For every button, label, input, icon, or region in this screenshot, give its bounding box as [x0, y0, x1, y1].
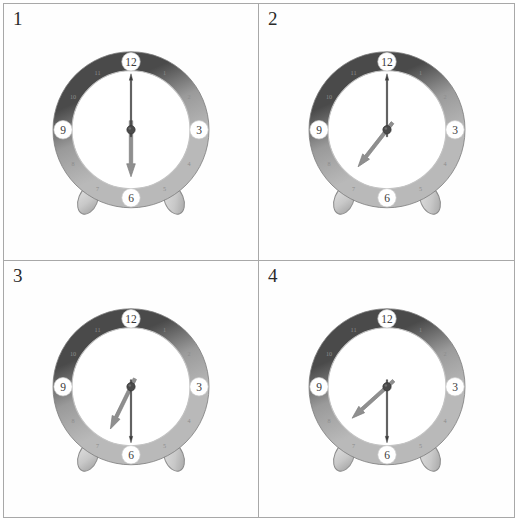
clock-hub-highlight: [384, 384, 387, 387]
clock-numeral-2: 2: [443, 350, 446, 357]
clock-numeral-10: 10: [70, 93, 76, 100]
clock-hub-highlight: [384, 127, 387, 130]
clock-panel-2[interactable]: 2 121234567891011: [258, 3, 515, 261]
clock-numeral-5: 5: [163, 442, 166, 449]
clock-numeral-10: 10: [325, 350, 331, 357]
clock-numeral-9: 9: [60, 381, 66, 393]
clock-numeral-4: 4: [443, 160, 446, 167]
panel-index-label: 1: [13, 9, 23, 30]
panel-index-label: 3: [13, 266, 23, 287]
clock-hub: [127, 126, 135, 134]
clock-panel-3[interactable]: 3 121234567891011: [3, 260, 259, 518]
clock-numeral-1: 1: [163, 326, 166, 333]
clock-numeral-6: 6: [128, 192, 134, 204]
clock-numeral-4: 4: [187, 160, 190, 167]
panel-index-label: 2: [268, 9, 278, 30]
clock-grid: 1 121234567891011 2 121234567891011 3 12…: [0, 0, 518, 521]
clock-numeral-1: 1: [418, 326, 421, 333]
clock-numeral-7: 7: [351, 442, 354, 449]
clock-numeral-8: 8: [71, 160, 74, 167]
clock-numeral-10: 10: [325, 93, 331, 100]
clock-numeral-8: 8: [71, 417, 74, 424]
clock-numeral-5: 5: [418, 442, 421, 449]
clock-numeral-2: 2: [187, 93, 190, 100]
clock-numeral-9: 9: [316, 381, 322, 393]
clock-numeral-7: 7: [96, 442, 99, 449]
clock-panel-1[interactable]: 1 121234567891011: [3, 3, 259, 261]
clock-numeral-11: 11: [95, 69, 101, 76]
clock-hub-highlight: [129, 384, 132, 387]
clock-numeral-11: 11: [350, 326, 356, 333]
clock-numeral-2: 2: [443, 93, 446, 100]
clock-numeral-12: 12: [125, 56, 137, 68]
clock-numeral-3: 3: [452, 381, 458, 393]
clock-illustration-3: 121234567891011: [48, 299, 214, 487]
clock-numeral-8: 8: [327, 417, 330, 424]
clock-numeral-1: 1: [163, 69, 166, 76]
clock-illustration-1: 121234567891011: [48, 42, 214, 230]
clock-numeral-3: 3: [196, 124, 202, 136]
clock-numeral-12: 12: [125, 313, 137, 325]
clock-numeral-5: 5: [163, 185, 166, 192]
clock-numeral-11: 11: [95, 326, 101, 333]
clock-numeral-2: 2: [187, 350, 190, 357]
clock-numeral-3: 3: [452, 124, 458, 136]
clock-hub-highlight: [129, 127, 132, 130]
clock-hub: [382, 383, 390, 391]
clock-numeral-3: 3: [196, 381, 202, 393]
clock-hub: [382, 126, 390, 134]
clock-numeral-6: 6: [384, 192, 390, 204]
clock-panel-4[interactable]: 4 121234567891011: [258, 260, 515, 518]
clock-numeral-8: 8: [327, 160, 330, 167]
clock-numeral-9: 9: [316, 124, 322, 136]
panel-index-label: 4: [268, 266, 278, 287]
clock-numeral-6: 6: [128, 449, 134, 461]
clock-numeral-7: 7: [96, 185, 99, 192]
clock-numeral-5: 5: [418, 185, 421, 192]
clock-numeral-4: 4: [443, 417, 446, 424]
clock-numeral-12: 12: [381, 56, 393, 68]
clock-numeral-9: 9: [60, 124, 66, 136]
clock-illustration-4: 121234567891011: [304, 299, 470, 487]
clock-hub: [127, 383, 135, 391]
clock-numeral-10: 10: [70, 350, 76, 357]
clock-numeral-6: 6: [384, 449, 390, 461]
clock-numeral-7: 7: [351, 185, 354, 192]
clock-illustration-2: 121234567891011: [304, 42, 470, 230]
clock-numeral-4: 4: [187, 417, 190, 424]
clock-numeral-12: 12: [381, 313, 393, 325]
clock-numeral-11: 11: [350, 69, 356, 76]
clock-numeral-1: 1: [418, 69, 421, 76]
